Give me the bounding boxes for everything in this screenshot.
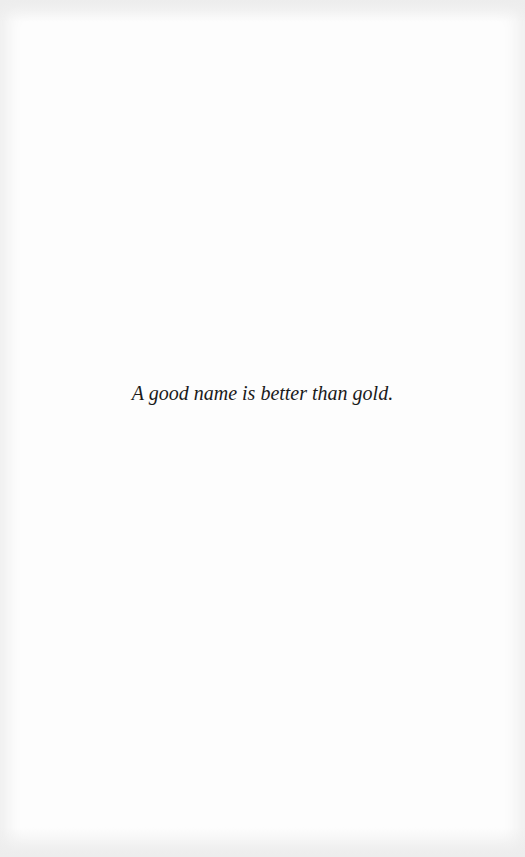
epigraph-text: A good name is better than gold. — [0, 382, 525, 405]
book-page: A good name is better than gold. — [0, 0, 525, 857]
